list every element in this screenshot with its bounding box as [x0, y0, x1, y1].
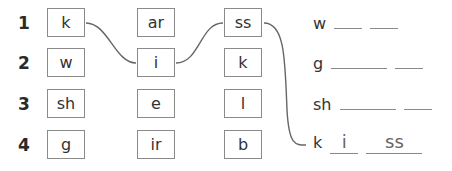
- letter-box[interactable]: ir: [137, 130, 175, 159]
- answer-start: k: [313, 133, 322, 152]
- answer-start: sh: [313, 95, 331, 114]
- answer-blank[interactable]: [370, 6, 398, 29]
- row-number: 1: [18, 8, 34, 38]
- letter-box[interactable]: g: [47, 130, 85, 159]
- answer-line-1: w: [313, 6, 398, 36]
- letter-box[interactable]: ar: [137, 8, 175, 37]
- connector-i-to-ss: [176, 23, 223, 63]
- answer-line-4: k i ss: [313, 128, 422, 158]
- answer-blank[interactable]: [331, 46, 387, 69]
- letter-box[interactable]: w: [47, 48, 85, 77]
- answer-start: w: [313, 14, 326, 33]
- letter-box[interactable]: k: [47, 8, 85, 37]
- answer-blank[interactable]: [340, 87, 396, 110]
- answer-blank[interactable]: i: [330, 131, 358, 154]
- answer-blank[interactable]: [404, 87, 432, 110]
- letter-box[interactable]: i: [137, 48, 175, 77]
- letter-box[interactable]: ss: [224, 8, 262, 37]
- connector-k-to-i: [86, 23, 136, 63]
- letter-box[interactable]: e: [137, 89, 175, 118]
- letter-box[interactable]: l: [224, 89, 262, 118]
- connector-ss-to-answer: [264, 23, 306, 145]
- row-number: 2: [18, 48, 34, 78]
- letter-box[interactable]: sh: [47, 89, 85, 118]
- row-number: 4: [18, 130, 34, 160]
- row-number: 3: [18, 89, 34, 119]
- answer-blank[interactable]: ss: [366, 131, 422, 154]
- answer-blank[interactable]: [395, 46, 423, 69]
- answer-start: g: [313, 54, 323, 73]
- answer-blank[interactable]: [334, 6, 362, 29]
- answer-line-3: sh: [313, 87, 432, 117]
- letter-box[interactable]: b: [224, 130, 262, 159]
- letter-box[interactable]: k: [224, 48, 262, 77]
- answer-line-2: g: [313, 46, 423, 76]
